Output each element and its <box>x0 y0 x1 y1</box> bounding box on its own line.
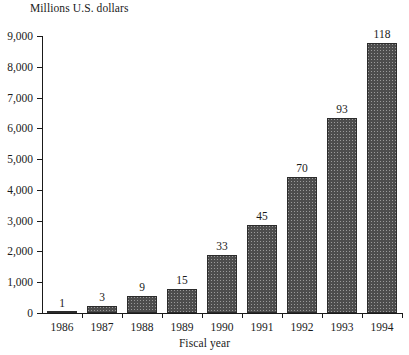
bar <box>367 43 397 313</box>
bar <box>207 255 237 313</box>
y-axis-tick-label: 6,000 <box>7 122 33 134</box>
bar <box>247 225 277 313</box>
x-axis-tick-label: 1991 <box>251 321 274 333</box>
y-axis-title: Millions U.S. dollars <box>30 2 129 14</box>
y-axis-tick-label: 5,000 <box>7 153 33 165</box>
y-axis-tick-mark <box>37 98 43 99</box>
bar-value-label: 70 <box>296 162 308 174</box>
bar <box>127 296 157 313</box>
bar-value-label: 15 <box>176 274 188 286</box>
plot-area: 01,0002,0003,0004,0005,0006,0007,0008,00… <box>42 36 402 314</box>
x-axis-tick-label: 1992 <box>291 321 314 333</box>
y-axis-tick-mark <box>37 190 43 191</box>
x-axis-tick-mark <box>122 313 123 318</box>
bar-chart-figure: Millions U.S. dollars 01,0002,0003,0004,… <box>0 0 409 355</box>
y-axis-tick-label: 1,000 <box>7 276 33 288</box>
x-axis-tick-label: 1988 <box>131 321 154 333</box>
bar <box>327 118 357 313</box>
x-axis-line <box>42 313 402 314</box>
x-axis-tick-mark <box>82 313 83 318</box>
x-axis-tick-mark <box>242 313 243 318</box>
x-axis-tick-mark <box>202 313 203 318</box>
x-axis-tick-label: 1993 <box>331 321 354 333</box>
y-axis-tick-label: 4,000 <box>7 184 33 196</box>
bar <box>47 311 77 313</box>
y-axis-tick-mark <box>37 282 43 283</box>
bar-value-label: 33 <box>216 240 228 252</box>
y-axis-tick-mark <box>37 67 43 68</box>
x-axis-tick-label: 1987 <box>91 321 114 333</box>
y-axis-tick-mark <box>37 159 43 160</box>
bar-value-label: 1 <box>59 297 65 309</box>
y-axis-tick-label: 8,000 <box>7 61 33 73</box>
bar <box>167 289 197 313</box>
x-axis-tick-mark <box>402 313 403 318</box>
x-axis-tick-label: 1989 <box>171 321 194 333</box>
x-axis-tick-label: 1994 <box>371 321 394 333</box>
y-axis-tick-label: 3,000 <box>7 215 33 227</box>
y-axis-tick-label: 9,000 <box>7 30 33 42</box>
y-axis-tick-mark <box>37 251 43 252</box>
x-axis-tick-label: 1986 <box>51 321 74 333</box>
y-axis-tick-label: 0 <box>27 307 33 319</box>
y-axis-tick-label: 7,000 <box>7 92 33 104</box>
y-axis-tick-label: 2,000 <box>7 245 33 257</box>
x-axis-tick-mark <box>322 313 323 318</box>
y-axis-line <box>42 36 43 314</box>
x-axis-tick-mark <box>162 313 163 318</box>
x-axis-title: Fiscal year <box>0 337 409 349</box>
x-axis-tick-mark <box>362 313 363 318</box>
bar-value-label: 45 <box>256 210 268 222</box>
bar <box>87 306 117 313</box>
bar <box>287 177 317 313</box>
y-axis-tick-mark <box>37 36 43 37</box>
y-axis-tick-mark <box>37 128 43 129</box>
y-axis-tick-mark <box>37 221 43 222</box>
x-axis-tick-mark <box>282 313 283 318</box>
x-axis-tick-label: 1990 <box>211 321 234 333</box>
y-axis-tick-mark <box>37 313 43 314</box>
bar-value-label: 3 <box>99 291 105 303</box>
bar-value-label: 9 <box>139 281 145 293</box>
bar-value-label: 93 <box>336 103 348 115</box>
bar-value-label: 118 <box>374 28 391 40</box>
